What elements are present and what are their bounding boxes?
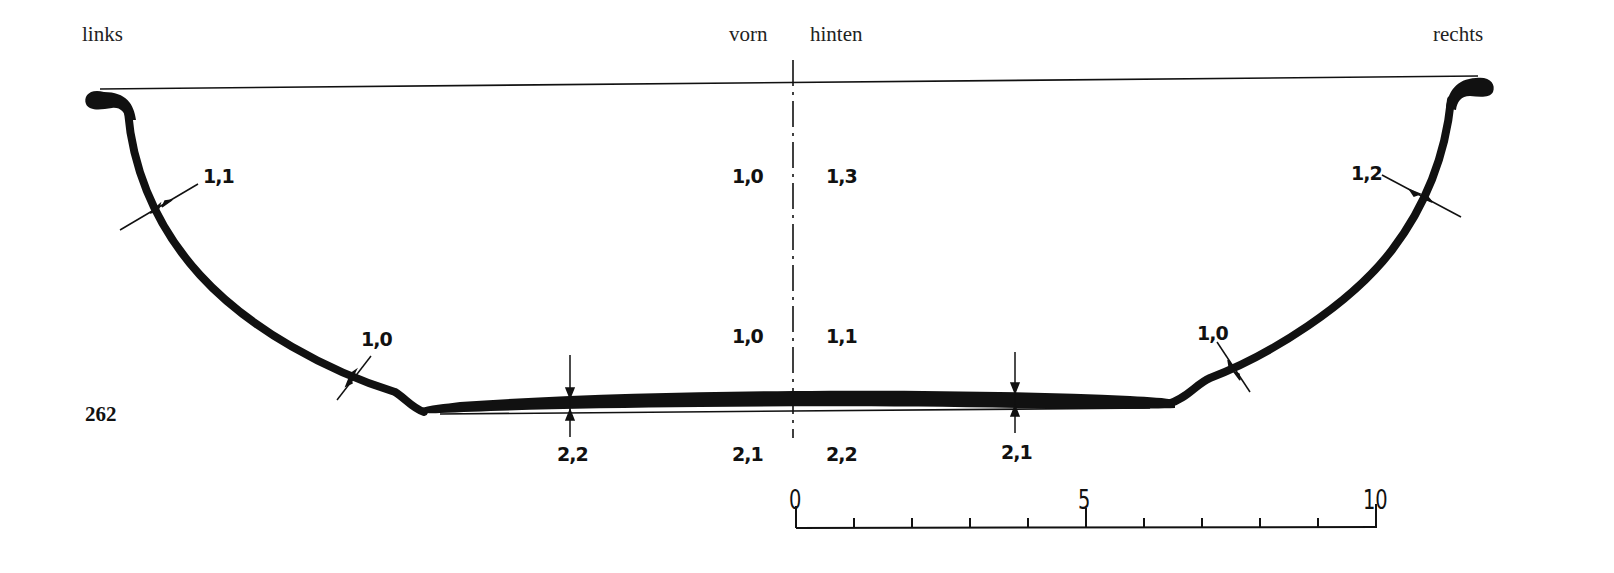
scale-label-10: 10 [1363,486,1388,513]
thickness-front-upper: 1,0 [732,167,763,186]
base-slab [418,391,1175,414]
right-wall [1168,100,1451,404]
label-back: hinten [810,24,863,45]
label-front: vorn [729,24,768,45]
base-thickness-back-center: 2,2 [826,445,857,464]
label-left: links [82,24,123,45]
thickness-right-upper: 1,2 [1351,164,1382,183]
thickness-back-upper: 1,3 [826,167,857,186]
thickness-front-lower: 1,0 [732,327,763,346]
base-thickness-right: 2,1 [1001,443,1032,462]
left-wall [128,112,424,412]
thickness-back-lower: 1,1 [826,327,857,346]
scale-label-0: 0 [789,486,801,513]
thickness-left-upper: 1,1 [203,167,234,186]
rim-line [100,76,1478,89]
base-thickness-left: 2,2 [557,445,588,464]
base-thickness-front-center: 2,1 [732,445,763,464]
scale-label-5: 5 [1078,486,1090,513]
plate-number: 262 [85,404,117,425]
label-right: rechts [1433,24,1483,45]
thickness-right-lower: 1,0 [1197,324,1228,343]
thickness-left-lower: 1,0 [361,330,392,349]
